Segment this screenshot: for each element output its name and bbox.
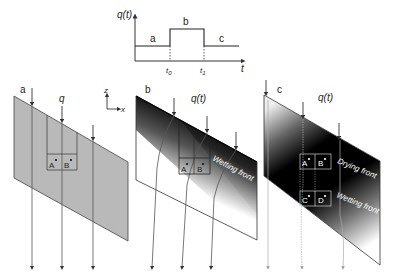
z-axis-label: z (103, 86, 108, 95)
tick-t0: t0 (166, 66, 172, 76)
point-b-label: B (64, 161, 69, 170)
panel-a-flux-label: q (59, 93, 65, 104)
soil-slab-a (14, 96, 128, 241)
soil-flow-diagram: q(t) t t0 t1 a b c z x a q A B (0, 0, 393, 280)
y-axis-label: q(t) (117, 9, 132, 20)
point-a-label: A (181, 165, 187, 174)
panel-c-flux-label: q(t) (318, 92, 333, 103)
phase-c-label: c (219, 33, 224, 44)
panel-a-label: a (20, 84, 26, 95)
point-d-label: D (318, 196, 324, 205)
panel-b-label: b (145, 84, 151, 95)
point-a-label: A (302, 159, 308, 168)
point-b-label: B (318, 159, 323, 168)
panel-a: a q A B (14, 84, 128, 268)
axes-indicator: z x (103, 86, 126, 114)
point-a-label: A (49, 161, 55, 170)
tick-t1: t1 (200, 66, 206, 76)
panel-c-label: c (277, 84, 282, 95)
phase-a-label: a (150, 33, 156, 44)
point-b-label: B (197, 165, 202, 174)
panel-b: b q(t) A B Wetting front (136, 84, 257, 268)
inset-flux-graph: q(t) t t0 t1 a b c (117, 9, 245, 76)
x-axis-indicator-label: x (120, 105, 126, 114)
panel-c: c q(t) A B C D Drying front Wetting fron… (264, 80, 381, 268)
panel-b-flux-label: q(t) (191, 93, 206, 104)
point-c-label: C (302, 196, 308, 205)
x-axis-label: t (241, 63, 245, 74)
phase-b-label: b (183, 16, 189, 27)
